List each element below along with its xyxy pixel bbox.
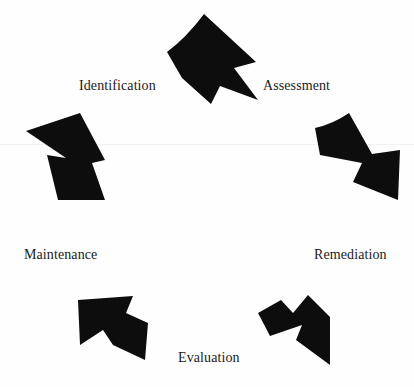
stage-label-evaluation: Evaluation bbox=[178, 351, 240, 365]
arrow-top bbox=[167, 14, 258, 104]
cycle-arrows-group bbox=[0, 0, 414, 387]
arrow-left bbox=[26, 113, 105, 200]
arrow-right bbox=[315, 113, 400, 200]
stage-label-maintenance: Maintenance bbox=[24, 248, 97, 262]
cycle-diagram: Identification Assessment Remediation Ev… bbox=[0, 0, 414, 387]
arrow-bottom-left bbox=[78, 296, 148, 360]
stage-label-identification: Identification bbox=[79, 79, 156, 93]
stage-label-assessment: Assessment bbox=[263, 79, 330, 93]
stage-label-remediation: Remediation bbox=[314, 248, 387, 262]
arrow-bottom-right bbox=[258, 295, 330, 365]
